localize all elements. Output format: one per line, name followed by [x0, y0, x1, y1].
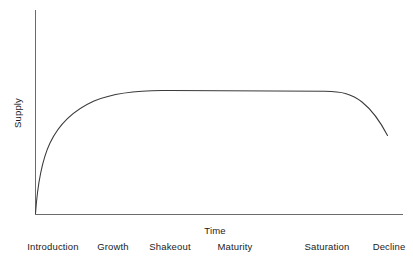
supply-lifecycle-chart: Supply Time Introduction Growth Shakeout… [0, 0, 413, 265]
stage-label-shakeout: Shakeout [149, 241, 191, 252]
stage-label-saturation: Saturation [305, 241, 350, 252]
y-axis-title: Supply [12, 98, 23, 128]
chart-canvas: Supply Time Introduction Growth Shakeout… [0, 0, 413, 265]
stage-label-maturity: Maturity [218, 241, 253, 252]
x-axis-title: Time [204, 225, 225, 236]
stage-label-decline: Decline [373, 241, 406, 252]
stage-label-growth: Growth [97, 241, 129, 252]
stage-label-introduction: Introduction [27, 241, 78, 252]
